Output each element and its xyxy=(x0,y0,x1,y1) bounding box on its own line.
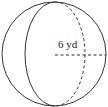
equator-front-arc xyxy=(25,2,55,106)
sphere-outline xyxy=(2,2,106,106)
sphere-diagram: 6 yd xyxy=(0,0,108,107)
equator-hidden-arc xyxy=(55,2,85,106)
radius-label: 6 yd xyxy=(58,38,78,50)
